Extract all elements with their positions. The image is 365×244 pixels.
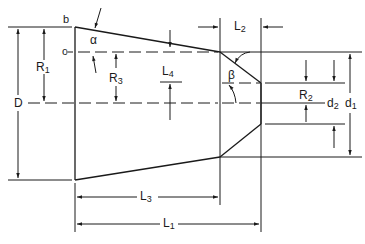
label-L2: L2 xyxy=(234,20,246,34)
label-R2: R2 xyxy=(299,89,313,103)
label-R1: R1 xyxy=(36,61,50,75)
label-L3: L3 xyxy=(140,190,152,204)
label-L1: L1 xyxy=(163,217,175,231)
label-D: D xyxy=(14,97,23,109)
label-L4: L4 xyxy=(162,65,174,79)
label-beta: β xyxy=(228,69,235,81)
label-d2: d2 xyxy=(327,97,339,111)
label-d1: d1 xyxy=(345,97,357,111)
shaft-drawing xyxy=(0,0,365,244)
label-c: c xyxy=(62,46,68,57)
label-R3: R3 xyxy=(109,72,123,86)
label-b: b xyxy=(63,14,69,25)
label-alpha: α xyxy=(90,34,97,46)
dashed-reference-lines xyxy=(28,52,260,103)
